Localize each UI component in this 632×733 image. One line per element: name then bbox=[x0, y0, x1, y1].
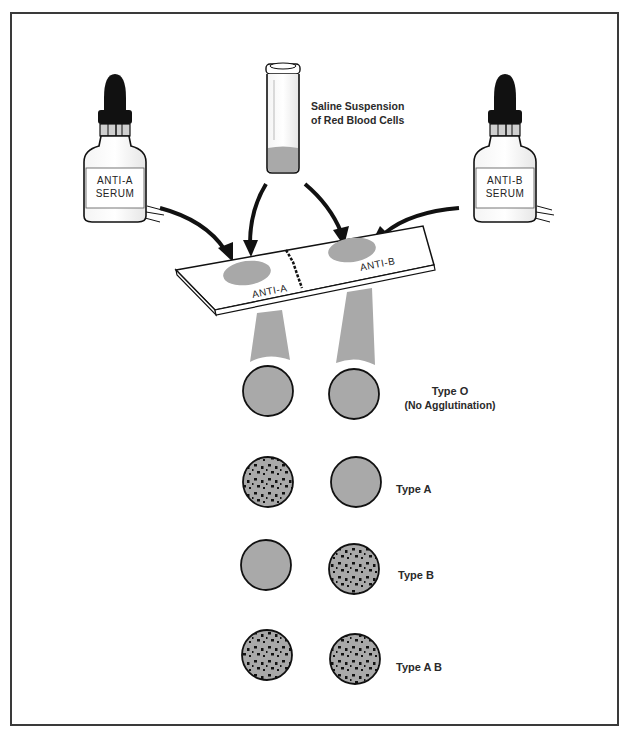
type-o-note: (No Agglutination) bbox=[400, 398, 500, 412]
anti-b-label-line1: ANTI-B bbox=[476, 174, 534, 187]
type-b-anti-b-result bbox=[329, 544, 379, 594]
result-label-type-b: Type B bbox=[398, 568, 434, 582]
type-a-anti-b-result bbox=[331, 457, 381, 507]
saline-label: Saline Suspension of Red Blood Cells bbox=[311, 99, 404, 127]
results-grid bbox=[241, 366, 381, 684]
type-b-anti-a-result bbox=[241, 540, 291, 590]
type-ab-anti-a-result bbox=[242, 630, 292, 680]
result-label-type-o: Type O (No Agglutination) bbox=[400, 384, 500, 412]
type-o-anti-a-result bbox=[243, 366, 293, 416]
saline-vial bbox=[266, 63, 300, 173]
saline-label-line1: Saline Suspension bbox=[311, 99, 404, 113]
type-o-title: Type O bbox=[400, 384, 500, 398]
saline-label-line2: of Red Blood Cells bbox=[311, 113, 404, 127]
anti-b-label-line2: SERUM bbox=[476, 187, 534, 200]
type-ab-anti-b-result bbox=[330, 634, 380, 684]
type-a-anti-a-result bbox=[243, 457, 293, 507]
type-o-anti-b-result bbox=[329, 369, 379, 419]
anti-a-label-line1: ANTI-A bbox=[86, 174, 144, 187]
anti-b-serum-label: ANTI-B SERUM bbox=[476, 174, 534, 200]
result-label-type-a: Type A bbox=[396, 482, 431, 496]
anti-a-label-line2: SERUM bbox=[86, 187, 144, 200]
anti-a-serum-label: ANTI-A SERUM bbox=[86, 174, 144, 200]
result-label-type-ab: Type A B bbox=[396, 660, 442, 674]
